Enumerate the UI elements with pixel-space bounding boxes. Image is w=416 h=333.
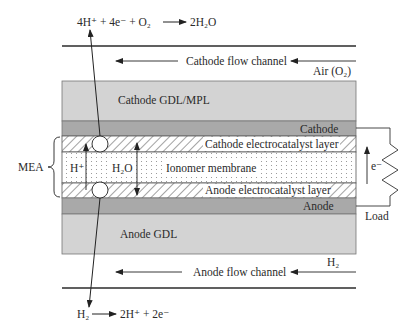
air-inlet-label: Air (O₂) bbox=[313, 65, 351, 78]
cathode-catalyst-particle-icon bbox=[92, 136, 108, 152]
anode-reaction-rhs: 2H⁺ + 2e⁻ bbox=[120, 308, 169, 320]
cathode-reaction-lhs: 4H⁺ + 4e⁻ + O₂ bbox=[77, 16, 151, 28]
anode-flow-channel-label: Anode flow channel bbox=[193, 266, 286, 278]
anode-reaction: H₂ 2H⁺ + 2e⁻ bbox=[77, 308, 169, 320]
anode-reaction-lhs: H₂ bbox=[77, 308, 89, 320]
cathode-catalyst-label: Cathode electrocatalyst layer bbox=[205, 138, 339, 151]
cathode-flow-channel-label: Cathode flow channel bbox=[186, 55, 287, 67]
anode-gdl-label: Anode GDL bbox=[120, 228, 177, 240]
proton-label: H⁺ bbox=[70, 162, 84, 174]
load-label: Load bbox=[365, 210, 389, 222]
anode-label: Anode bbox=[303, 200, 334, 212]
electron-label: e⁻ bbox=[371, 160, 382, 172]
mea-brace-icon bbox=[48, 137, 60, 197]
cathode-reaction-rhs: 2H₂O bbox=[190, 16, 216, 28]
cathode-reaction: 4H⁺ + 4e⁻ + O₂ 2H₂O bbox=[77, 16, 216, 28]
anode-catalyst-particle-icon bbox=[92, 182, 108, 198]
anode-gdl-layer bbox=[62, 214, 356, 254]
mea-label: MEA bbox=[18, 161, 44, 173]
cathode-label: Cathode bbox=[300, 123, 338, 135]
membrane-label: Ionomer membrane bbox=[166, 162, 256, 174]
fuel-cell-diagram: 4H⁺ + 4e⁻ + O₂ 2H₂O Cathode flow channel… bbox=[0, 0, 416, 333]
hydrogen-inlet-label: H₂ bbox=[327, 256, 339, 268]
anode-catalyst-label: Anode electrocatalyst layer bbox=[205, 184, 331, 197]
cathode-gdl-label: Cathode GDL/MPL bbox=[118, 94, 210, 106]
water-label: H₂O bbox=[112, 162, 133, 174]
